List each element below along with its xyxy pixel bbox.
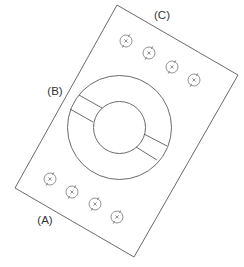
fastener-row-c	[120, 34, 200, 87]
fastener-icon	[143, 46, 155, 60]
slot-line-lower-right	[144, 134, 167, 146]
label-c: (C)	[154, 10, 170, 22]
label-b: (B)	[47, 86, 62, 98]
ring-inner-circle	[94, 102, 146, 154]
ring-slots	[70, 95, 167, 160]
fastener-icon	[44, 172, 56, 186]
fastener-icon	[166, 60, 178, 74]
fastener-icon	[89, 197, 101, 211]
fastener-row-a	[44, 172, 123, 224]
center-ring	[68, 76, 172, 180]
label-a: (A)	[37, 215, 52, 227]
ring-outer-circle	[68, 76, 172, 180]
fastener-icon	[120, 34, 132, 48]
fastener-icon	[188, 73, 200, 87]
slot-line-upper-left	[79, 95, 102, 108]
fastener-icon	[66, 185, 78, 199]
fastener-icon	[111, 210, 123, 224]
slot-line-upper-left	[70, 109, 93, 122]
slot-line-lower-right	[136, 147, 157, 160]
plate-diagram	[0, 0, 244, 267]
